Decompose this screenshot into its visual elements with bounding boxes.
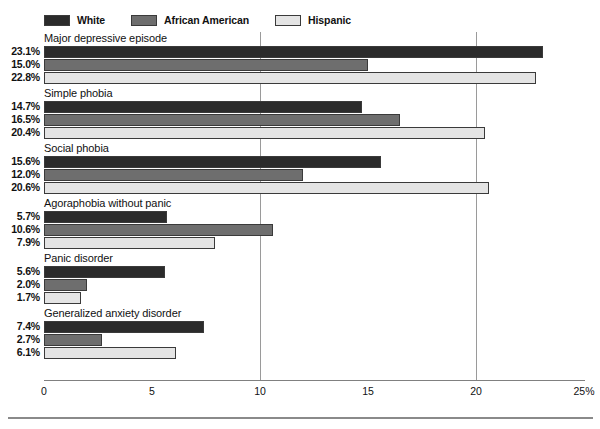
bar-value-label: 5.6% — [0, 265, 40, 277]
bar-value-label: 20.6% — [0, 181, 40, 193]
bar-row: 15.6% — [0, 156, 600, 168]
bar[interactable] — [44, 292, 81, 304]
bar[interactable] — [44, 224, 273, 236]
bar-value-label: 22.8% — [0, 71, 40, 83]
x-axis-tick-label: 5 — [149, 385, 155, 397]
legend-swatch-icon — [44, 15, 70, 26]
bar-value-label: 2.7% — [0, 333, 40, 345]
bar-row: 6.1% — [0, 347, 600, 359]
x-axis-tick-label: 0 — [41, 385, 47, 397]
bar-row: 5.6% — [0, 266, 600, 278]
bar-row: 10.6% — [0, 224, 600, 236]
bar-row: 20.6% — [0, 182, 600, 194]
legend-entry[interactable]: Hispanic — [275, 14, 351, 26]
group-label: Agoraphobia without panic — [44, 197, 171, 209]
bar-value-label: 15.0% — [0, 58, 40, 70]
bar[interactable] — [44, 266, 165, 278]
bar[interactable] — [44, 156, 381, 168]
bar-row: 12.0% — [0, 169, 600, 181]
bar-group: Social phobia15.6%12.0%20.6% — [0, 142, 600, 195]
bar-value-label: 7.9% — [0, 236, 40, 248]
bar-value-label: 5.7% — [0, 210, 40, 222]
bottom-divider-rule — [8, 417, 593, 419]
chart-legend: WhiteAfrican AmericanHispanic — [44, 12, 377, 28]
bar-row: 16.5% — [0, 114, 600, 126]
x-axis-tick-label: 20 — [470, 385, 482, 397]
bar[interactable] — [44, 46, 543, 58]
bar-value-label: 16.5% — [0, 113, 40, 125]
bar-value-label: 10.6% — [0, 223, 40, 235]
bar-value-label: 6.1% — [0, 346, 40, 358]
legend-swatch-icon — [275, 15, 301, 26]
bar-value-label: 2.0% — [0, 278, 40, 290]
bar[interactable] — [44, 334, 102, 346]
bar-group: Generalized anxiety disorder7.4%2.7%6.1% — [0, 307, 600, 360]
bar-value-label: 23.1% — [0, 45, 40, 57]
bar-group: Panic disorder5.6%2.0%1.7% — [0, 252, 600, 305]
legend-label: Hispanic — [308, 14, 351, 26]
legend-swatch-icon — [131, 15, 157, 26]
bar-row: 20.4% — [0, 127, 600, 139]
bar[interactable] — [44, 182, 489, 194]
bar[interactable] — [44, 279, 87, 291]
bar-group: Major depressive episode23.1%15.0%22.8% — [0, 32, 600, 85]
bar[interactable] — [44, 59, 368, 71]
bar-row: 2.0% — [0, 279, 600, 291]
bar[interactable] — [44, 127, 485, 139]
group-label: Generalized anxiety disorder — [44, 307, 181, 319]
x-axis-line — [44, 380, 585, 381]
x-axis-tick-label: 10 — [254, 385, 266, 397]
bar[interactable] — [44, 347, 176, 359]
bar-chart: WhiteAfrican AmericanHispanic Major depr… — [0, 0, 600, 429]
group-label: Panic disorder — [44, 252, 113, 264]
bar-row: 15.0% — [0, 59, 600, 71]
bar[interactable] — [44, 211, 167, 223]
group-label: Major depressive episode — [44, 32, 167, 44]
legend-label: African American — [164, 14, 249, 26]
legend-entry[interactable]: White — [44, 14, 105, 26]
bar[interactable] — [44, 114, 400, 126]
bar-row: 14.7% — [0, 101, 600, 113]
bar-value-label: 12.0% — [0, 168, 40, 180]
bar-row: 22.8% — [0, 72, 600, 84]
bar-row: 2.7% — [0, 334, 600, 346]
bar[interactable] — [44, 101, 362, 113]
group-label: Simple phobia — [44, 87, 112, 99]
bar-row: 7.4% — [0, 321, 600, 333]
legend-label: White — [77, 14, 105, 26]
group-label: Social phobia — [44, 142, 109, 154]
bar-row: 1.7% — [0, 292, 600, 304]
bar-row: 5.7% — [0, 211, 600, 223]
bar-value-label: 7.4% — [0, 320, 40, 332]
x-axis-tick-label: 25% — [573, 385, 594, 397]
bar-row: 23.1% — [0, 46, 600, 58]
legend-entry[interactable]: African American — [131, 14, 249, 26]
plot-area: Major depressive episode23.1%15.0%22.8%S… — [0, 32, 600, 380]
bar-row: 7.9% — [0, 237, 600, 249]
x-axis-tick-label: 15 — [362, 385, 374, 397]
bar-group: Agoraphobia without panic5.7%10.6%7.9% — [0, 197, 600, 250]
bar[interactable] — [44, 169, 303, 181]
bar-group: Simple phobia14.7%16.5%20.4% — [0, 87, 600, 140]
bar[interactable] — [44, 321, 204, 333]
bar-value-label: 20.4% — [0, 126, 40, 138]
bar-value-label: 14.7% — [0, 100, 40, 112]
bar-value-label: 1.7% — [0, 291, 40, 303]
bar-value-label: 15.6% — [0, 155, 40, 167]
bar[interactable] — [44, 237, 215, 249]
bar[interactable] — [44, 72, 536, 84]
